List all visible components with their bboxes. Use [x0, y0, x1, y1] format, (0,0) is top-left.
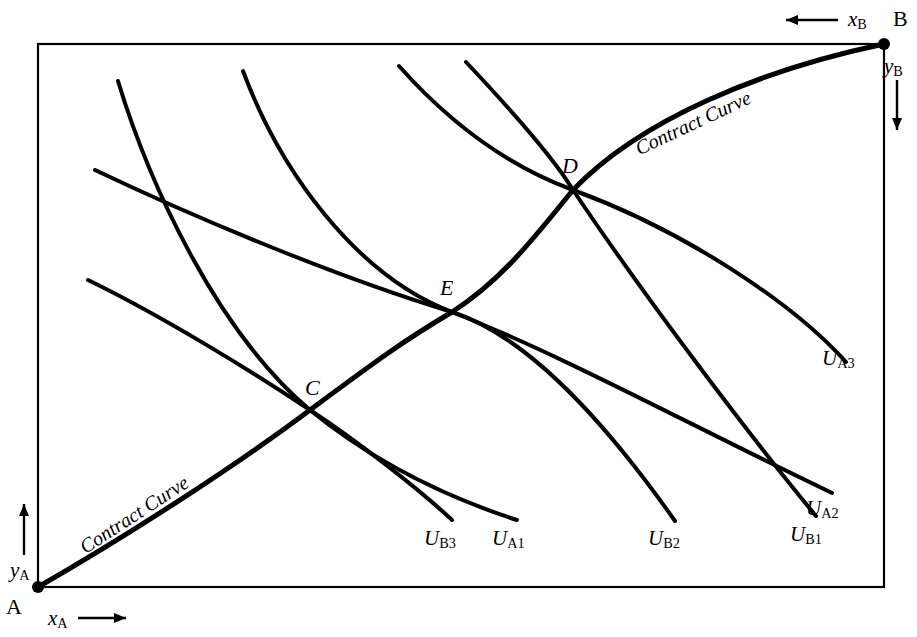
tangency-point-label-c: C [305, 377, 320, 399]
x-b-arrow-icon [786, 15, 838, 25]
edgeworth-box-figure: A B xA yA xB yB Contract Curve Contract … [0, 0, 917, 637]
curve-label-ua1: UA1 [492, 528, 525, 550]
curve-label-ua3: UA3 [822, 348, 855, 370]
origin-b-label: B [893, 8, 908, 30]
y-a-axis-label: yA [10, 560, 30, 582]
x-a-axis-label: xA [48, 608, 68, 630]
origin-a-label: A [6, 596, 22, 618]
indifference-curve-ub3 [88, 280, 452, 520]
curve-label-ub2: UB2 [648, 528, 680, 550]
curve-label-ub1: UB1 [790, 524, 822, 546]
y-a-arrow-icon [19, 504, 29, 555]
x-b-axis-label: xB [848, 9, 867, 31]
y-b-arrow-icon [892, 80, 902, 130]
tangency-point-label-e: E [440, 277, 453, 299]
diagram-canvas [0, 0, 917, 637]
indifference-curve-ub2 [95, 170, 675, 521]
curve-label-ua2: UA2 [806, 498, 839, 520]
x-a-arrow-icon [78, 613, 126, 623]
origin-b-dot [878, 38, 890, 50]
indifference-curve-ua1 [118, 81, 517, 520]
tangency-point-label-d: D [562, 155, 578, 177]
curve-label-ub3: UB3 [424, 528, 456, 550]
origin-a-dot [32, 581, 44, 593]
y-b-axis-label: yB [884, 56, 903, 78]
indifference-curve-ua2 [243, 71, 832, 493]
